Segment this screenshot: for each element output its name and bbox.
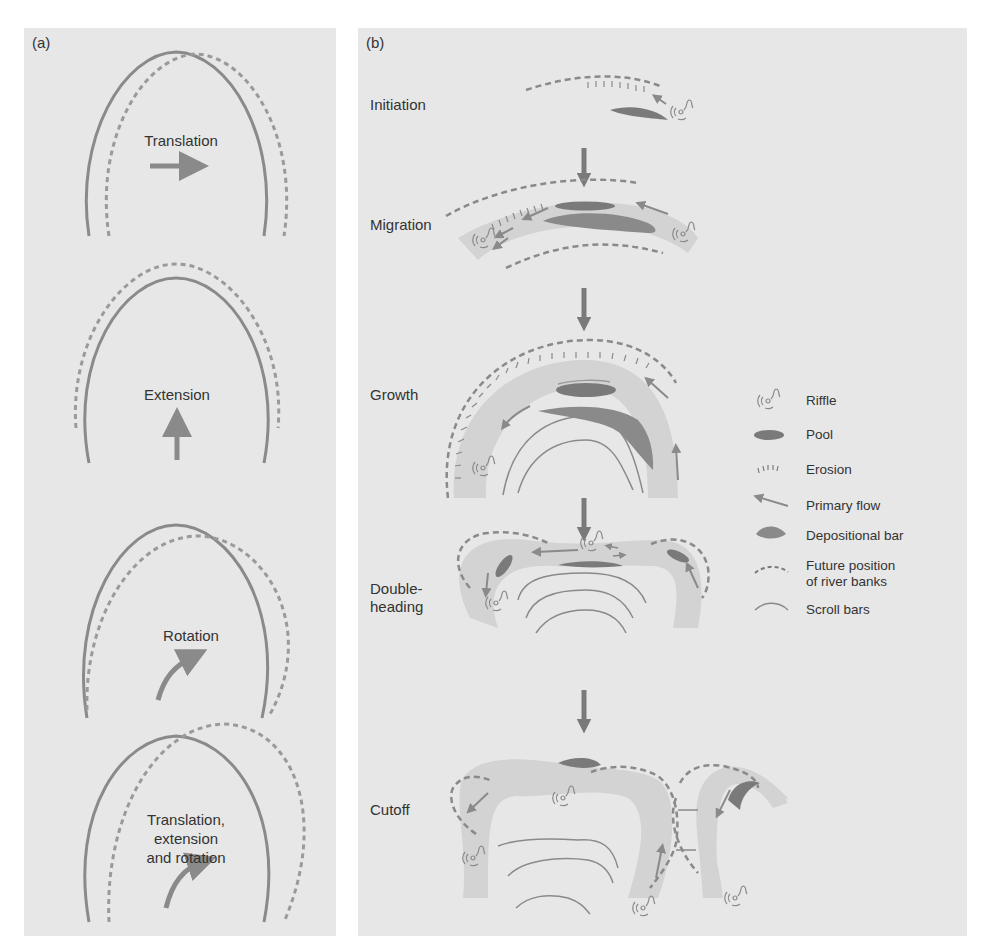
panel-a-meander-movements: (a) Translati bbox=[24, 28, 336, 936]
legend-erosion: Erosion bbox=[806, 462, 852, 478]
caption-line: and rotation bbox=[116, 848, 256, 867]
meander-shapes-svg bbox=[24, 28, 336, 936]
future-bank-icon bbox=[755, 567, 788, 573]
legend-line: Future position bbox=[806, 558, 895, 574]
legend-scroll-bars: Scroll bars bbox=[806, 602, 870, 618]
legend-line: of river banks bbox=[806, 574, 895, 590]
meander-stages-svg bbox=[358, 28, 967, 936]
riffle-icon bbox=[758, 389, 780, 409]
stage-label-double-heading: Double- heading bbox=[370, 580, 423, 616]
stage-initiation-diagram bbox=[526, 76, 693, 120]
pool-icon bbox=[754, 430, 784, 440]
legend-pool: Pool bbox=[806, 427, 833, 443]
primary-flow-icon bbox=[758, 497, 788, 506]
stage-label-growth: Growth bbox=[370, 386, 418, 404]
scroll-bar-icon bbox=[755, 603, 788, 610]
caption-extension: Extension bbox=[112, 385, 242, 404]
legend-riffle: Riffle bbox=[806, 393, 837, 409]
legend-primary-flow: Primary flow bbox=[806, 498, 880, 514]
caption-rotation: Rotation bbox=[126, 626, 256, 645]
label-line: heading bbox=[370, 598, 423, 616]
caption-combined: Translation, extension and rotation bbox=[116, 810, 256, 867]
legend-icons bbox=[754, 389, 788, 610]
stage-label-initiation: Initiation bbox=[370, 96, 426, 114]
stage-growth-diagram bbox=[447, 340, 678, 498]
depositional-bar-icon bbox=[756, 527, 786, 539]
erosion-icon bbox=[758, 465, 778, 473]
caption-line: extension bbox=[116, 829, 256, 848]
stage-migration-diagram bbox=[446, 180, 698, 268]
legend-future-bank: Future position of river banks bbox=[806, 558, 895, 590]
label-line: Double- bbox=[370, 580, 423, 598]
stage-label-migration: Migration bbox=[370, 216, 432, 234]
rotation-diagram bbox=[84, 525, 289, 718]
caption-translation: Translation bbox=[116, 131, 246, 150]
legend-depositional-bar: Depositional bar bbox=[806, 528, 904, 544]
stage-double-heading-diagram bbox=[458, 531, 708, 633]
stage-cutoff-diagram bbox=[451, 758, 788, 916]
extension-diagram bbox=[75, 264, 278, 463]
panel-b-meander-evolution: (b) bbox=[358, 28, 967, 936]
caption-line: Translation, bbox=[116, 810, 256, 829]
stage-label-cutoff: Cutoff bbox=[370, 801, 410, 819]
